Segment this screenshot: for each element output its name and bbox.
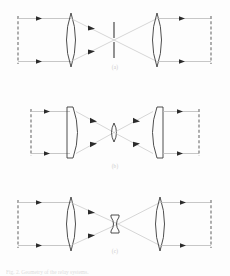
arrowhead-icon xyxy=(88,209,95,214)
ray-lower-converging xyxy=(76,133,114,154)
second-biconvex-lens xyxy=(153,13,162,67)
panel-b xyxy=(0,92,230,184)
first-plano-convex-lens xyxy=(67,107,78,158)
arrowhead-icon xyxy=(36,16,42,20)
arrowhead-icon xyxy=(179,16,185,20)
arrowhead-icon xyxy=(88,234,95,239)
panel-b-label: (b) xyxy=(0,163,230,169)
ray-lower-diverging xyxy=(114,40,157,62)
arrowhead-icon xyxy=(44,109,50,113)
arrowhead-icon xyxy=(133,118,140,123)
ray-upper-diverging xyxy=(114,19,157,41)
ray-upper-converging xyxy=(71,203,118,225)
ray-lower-converging xyxy=(71,224,118,246)
panel-c-label: (c) xyxy=(0,248,230,254)
first-biconvex-lens xyxy=(67,197,76,251)
arrowhead-icon xyxy=(180,200,186,204)
panel-c xyxy=(0,184,230,268)
optical-figure: (a) (b) xyxy=(0,0,230,276)
ray-upper-diverging xyxy=(118,203,160,225)
first-biconvex-lens xyxy=(67,13,76,67)
figure-caption: Fig. 2. Geometry of the relay systems. xyxy=(6,269,228,275)
panel-a-label: (a) xyxy=(0,64,230,70)
arrowhead-icon xyxy=(177,109,183,113)
ray-upper-converging xyxy=(76,112,114,133)
panel-a xyxy=(0,0,230,92)
arrowhead-icon xyxy=(44,151,50,155)
second-biconvex-lens xyxy=(156,197,165,251)
ray-lower-diverging xyxy=(118,224,160,246)
arrowhead-icon xyxy=(133,142,140,147)
arrowhead-icon xyxy=(177,151,183,155)
second-plano-convex-lens xyxy=(153,107,164,158)
arrowhead-icon xyxy=(36,200,42,204)
